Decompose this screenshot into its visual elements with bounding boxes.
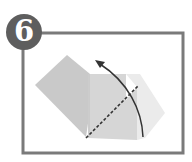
paper-left-flap xyxy=(35,55,90,137)
origami-step-diagram: 6 xyxy=(0,0,192,162)
step-number-badge: 6 xyxy=(6,14,42,50)
step-number: 6 xyxy=(14,17,34,46)
paper-middle-section xyxy=(88,74,137,140)
